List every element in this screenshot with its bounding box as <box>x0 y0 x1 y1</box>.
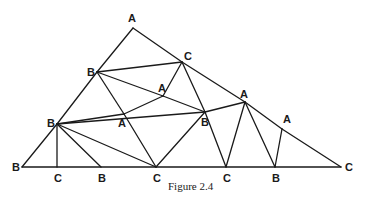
vertex-label: B <box>47 117 55 129</box>
vertex-label: C <box>345 161 353 173</box>
edge <box>156 112 205 167</box>
edge <box>205 102 245 112</box>
edge <box>97 28 133 72</box>
vertex-label: A <box>283 113 291 125</box>
vertex-label: A <box>128 12 136 24</box>
figure-caption: Figure 2.4 <box>168 180 214 192</box>
vertex-label: A <box>158 82 166 94</box>
vertex-label: B <box>272 172 280 184</box>
edge <box>124 96 163 114</box>
vertex-label: C <box>223 172 231 184</box>
edge <box>97 72 124 114</box>
vertex-label: A <box>240 88 248 100</box>
vertex-label: B <box>201 116 209 128</box>
edge <box>57 112 205 124</box>
triangulation-diagram: ABCAABAABBCBCCBC Figure 2.4 <box>0 0 366 210</box>
edge <box>57 124 101 167</box>
edge <box>124 114 156 167</box>
vertex-label: C <box>153 172 161 184</box>
vertex-label: C <box>184 50 192 62</box>
edges <box>22 28 341 167</box>
edge <box>57 124 156 167</box>
edge <box>57 72 97 124</box>
vertex-label: A <box>118 117 126 129</box>
edge <box>282 129 341 167</box>
vertex-label: C <box>54 172 62 184</box>
vertex-label: B <box>98 172 106 184</box>
edge <box>245 102 275 167</box>
vertex-label: B <box>12 161 20 173</box>
edge <box>22 124 57 167</box>
edge <box>133 28 182 62</box>
vertex-label: B <box>87 66 95 78</box>
edge <box>226 102 245 167</box>
edge <box>275 129 282 167</box>
edge <box>97 62 182 72</box>
edge <box>97 72 163 96</box>
vertex-labels: ABCAABAABBCBCCBC <box>12 12 353 184</box>
